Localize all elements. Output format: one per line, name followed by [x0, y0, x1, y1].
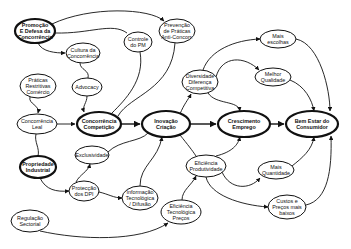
node-promocao: PromoçãoE Defesa daConcorrência — [15, 19, 55, 43]
node-label: Emprego — [232, 124, 256, 130]
node-label: do PM — [130, 42, 146, 48]
node-eficprod: EficiênciaProdutividade — [186, 155, 226, 177]
edge-custos-bemestar — [306, 136, 331, 205]
node-label: Preços — [173, 215, 190, 221]
edge-advocacy-conccomp — [84, 96, 87, 112]
node-label: Competitiva — [186, 85, 214, 91]
edge-promocao-controle — [55, 28, 127, 33]
edge-concleal-propriedade — [36, 134, 39, 156]
node-conccomp: ConcorrênciaCompetição — [77, 112, 121, 136]
node-controle: Controledo PM — [124, 32, 152, 52]
node-label: Concorrência — [18, 34, 54, 40]
edge-informacao-inovacao — [140, 137, 162, 186]
edge-propriedade-proteccao — [40, 178, 69, 191]
node-regulacao: RegulaçãoSectorial — [11, 210, 49, 232]
edge-maisquant-bemestar — [292, 137, 314, 166]
node-prevencao: Prevençãode PráticasAnti-Concorr. — [159, 19, 195, 43]
node-label: Consumidor — [296, 124, 329, 130]
node-cultura: Cultura daConcorrência — [66, 43, 100, 63]
node-propriedade: PropriedadeIndustrial — [20, 156, 56, 178]
node-label: Sectorial — [20, 221, 41, 227]
edge-promocao-prevencao — [52, 11, 164, 24]
concept-diagram: PromoçãoE Defesa daConcorrênciaCultura d… — [0, 0, 351, 249]
edge-praticas-concleal — [30, 97, 38, 113]
edge-prevencao-conccomp — [118, 43, 175, 116]
node-maisescolhas: Maisescolhas — [260, 30, 296, 48]
node-label: Advocacy — [75, 84, 99, 90]
node-label: / Difusão — [129, 201, 150, 207]
edge-promocao-cultura — [38, 43, 65, 53]
node-efictec: EficiênciaTecnológicaPreços — [161, 200, 201, 224]
node-bemestar: Bem Estar doConsumidor — [286, 111, 338, 137]
edge-diversidade-maisescolhas — [203, 39, 260, 70]
node-diversidade: DiversidadeDiferençaCompetitiva — [182, 70, 218, 94]
edge-inovacao-eficprod — [180, 135, 196, 156]
node-exclusividade: Exclusividade — [75, 146, 109, 164]
node-proteccao: Protecçãodos DPI — [69, 181, 99, 201]
node-concleal: ConcorrênciaLeal — [17, 114, 57, 134]
node-label: Criação — [156, 124, 176, 130]
node-label: dos DPI — [74, 191, 93, 197]
node-label: Leal — [32, 124, 42, 130]
edge-maisescolhas-bemestar — [296, 39, 330, 111]
edge-eficprod-custos — [206, 177, 268, 207]
node-label: Produtividade — [190, 166, 223, 172]
edge-eficprod-crescimento — [216, 137, 240, 156]
node-label: Industrial — [26, 167, 51, 173]
node-label: Quantidade — [262, 170, 290, 176]
node-label: Qualidade — [261, 77, 286, 83]
node-label: Comércio — [26, 89, 49, 95]
edge-cultura-advocacy — [80, 63, 88, 78]
edge-diversidade-crescimento — [208, 93, 240, 111]
node-maisquant: MaisQuantidade — [258, 161, 294, 179]
edge-regulacao-efictec — [40, 223, 168, 238]
node-melhorqual: MelhorQualidade — [255, 68, 291, 86]
node-informacao: InformaçãoTecnológica/ Difusão — [122, 186, 158, 210]
node-label: Competição — [84, 124, 116, 130]
node-label: baixos — [279, 210, 295, 216]
edge-eficprod-maisquant — [222, 172, 260, 186]
node-label: escolhas — [267, 39, 289, 45]
node-inovacao: InovaçãoCriação — [142, 111, 190, 137]
node-label: Exclusividade — [76, 152, 109, 158]
node-praticas: PráticasRestritivasComércio — [20, 74, 56, 98]
edge-efictec-eficprod — [182, 176, 196, 200]
edge-melhorqual-bemestar — [290, 80, 314, 111]
edge-proteccao-informacao — [99, 192, 122, 198]
edge-inovacao-diversidade — [180, 94, 191, 114]
node-label: Anti-Concorr. — [161, 34, 192, 40]
edge-diversidade-melhorqual — [216, 60, 259, 77]
node-advocacy: Advocacy — [72, 78, 102, 96]
edge-proteccao-exclusividade — [76, 164, 90, 182]
edge-controle-conccomp — [112, 52, 141, 113]
edge-exclusividade-inovacao — [108, 133, 148, 152]
node-custos: Custos ePreços maisbaixos — [268, 195, 306, 219]
node-label: Concorrência — [67, 53, 99, 59]
node-crescimento: CrescimentoEmprego — [218, 111, 270, 137]
